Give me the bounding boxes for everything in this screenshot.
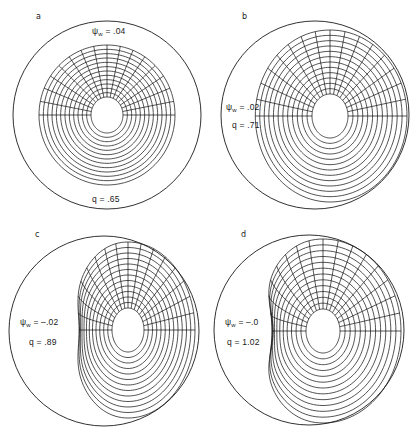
panel-d: d ψw = –.0 q = 1.02 [0,0,412,437]
panel-letter: d [241,230,246,239]
radial-grid-line [330,246,353,311]
q-label: q = 1.02 [227,337,260,347]
flux-surface [306,309,340,353]
radial-grid-line [339,296,395,323]
psi-label: ψw = –.0 [225,317,259,328]
flux-diagram-d [0,0,412,437]
